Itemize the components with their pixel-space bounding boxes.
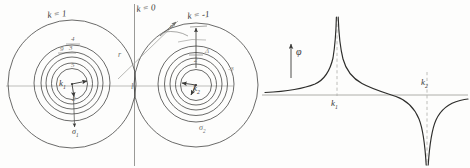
label-sigma-2: σ2 bbox=[199, 124, 206, 134]
figure-root: k = 1 k = 0 k = -1 k1 k2 l r 4 3 9 5 2 σ… bbox=[0, 0, 470, 168]
label-center-k2-sub: 2 bbox=[197, 89, 200, 95]
label-ray-r: r bbox=[118, 51, 121, 59]
label-sigma-2-sub: 2 bbox=[203, 128, 206, 134]
label-asymptote-k1-sub: 1 bbox=[335, 104, 338, 110]
label-ring-4: 4 bbox=[71, 36, 75, 43]
label-right-side-minus-3: -3 bbox=[228, 66, 234, 73]
label-ring-5: 5 bbox=[71, 62, 75, 69]
ray-r-line bbox=[118, 21, 178, 79]
label-arc-rho: ρ bbox=[170, 23, 173, 30]
right-panel-group bbox=[262, 17, 468, 166]
label-ring-3: 3 bbox=[69, 45, 73, 52]
label-center-k2: k2 bbox=[193, 84, 200, 96]
label-ring-2: 2 bbox=[72, 96, 76, 103]
label-center-k1-sub: 1 bbox=[63, 84, 66, 90]
tick-k2-top bbox=[190, 26, 207, 27]
arc-rho bbox=[164, 32, 188, 37]
ray-r-arrow bbox=[160, 22, 176, 36]
label-asymptote-k2: k2 bbox=[421, 78, 428, 90]
label-arc-delta: Δ bbox=[205, 48, 209, 55]
label-center-k1: k1 bbox=[59, 79, 66, 91]
label-horizontal-axis-l: l bbox=[131, 83, 133, 91]
curve-branch-right bbox=[428, 99, 468, 165]
label-right-inner-2: 2 bbox=[194, 57, 198, 64]
label-phi-axis: φ bbox=[296, 47, 302, 57]
curve-branch-middle bbox=[338, 17, 426, 165]
label-sigma-1-sub: 1 bbox=[76, 132, 79, 138]
label-asymptote-k2-sub: 2 bbox=[425, 83, 428, 89]
label-ring-9: 9 bbox=[60, 46, 64, 53]
label-asymptote-k1: k1 bbox=[331, 99, 338, 111]
label-sigma-1: σ1 bbox=[72, 128, 79, 138]
figure-drawing bbox=[0, 0, 470, 168]
arrow-k1-right bbox=[72, 81, 87, 84]
arc-delta bbox=[178, 39, 206, 42]
